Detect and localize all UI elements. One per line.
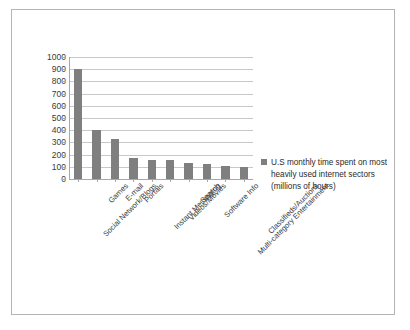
bar bbox=[129, 158, 137, 179]
bar bbox=[148, 160, 156, 179]
bar bbox=[74, 69, 82, 179]
y-axis-tick-mark bbox=[63, 94, 66, 95]
legend-label-line2: heavily used internet sectors bbox=[271, 169, 387, 181]
x-axis-tick-mark bbox=[133, 179, 134, 182]
bar-series bbox=[69, 57, 253, 179]
bar bbox=[92, 130, 100, 179]
plot-area bbox=[69, 57, 253, 179]
y-axis-tick-mark bbox=[63, 118, 66, 119]
x-axis-tick-label: Multi-category Entertainment bbox=[257, 182, 331, 256]
legend-label-line3: (millions of hours) bbox=[271, 181, 387, 193]
y-axis-tick-mark bbox=[63, 142, 66, 143]
x-axis-tick-mark bbox=[97, 179, 98, 182]
x-axis-tick-label: Software Info bbox=[223, 182, 260, 219]
y-axis-tick-mark bbox=[63, 155, 66, 156]
x-axis-tick-mark bbox=[115, 179, 116, 182]
y-axis-tick-mark bbox=[63, 69, 66, 70]
bar bbox=[221, 166, 229, 179]
x-axis-labels: Social Network/BlogsGamesE-mailPortalsIn… bbox=[69, 179, 253, 289]
x-axis-tick-mark bbox=[225, 179, 226, 182]
y-axis: 01002003004005006007008009001000 bbox=[30, 51, 66, 185]
y-axis-tick-mark bbox=[63, 106, 66, 107]
chart-container: 01002003004005006007008009001000 Social … bbox=[11, 9, 395, 315]
legend: U.S monthly time spent on most heavily u… bbox=[261, 157, 399, 193]
x-axis-tick-mark bbox=[170, 179, 171, 182]
y-axis-tick-mark bbox=[63, 81, 66, 82]
bar bbox=[184, 163, 192, 179]
x-axis-tick-mark bbox=[207, 179, 208, 182]
y-axis-tick-mark bbox=[63, 57, 66, 58]
bar bbox=[166, 160, 174, 179]
legend-swatch-icon bbox=[261, 159, 267, 165]
bar bbox=[240, 167, 248, 179]
legend-label: U.S monthly time spent on most heavily u… bbox=[271, 157, 387, 193]
y-axis-tick-mark bbox=[63, 179, 66, 180]
x-axis-tick-mark bbox=[78, 179, 79, 182]
y-axis-tick-mark bbox=[63, 167, 66, 168]
bar bbox=[203, 164, 211, 179]
x-axis-tick-mark bbox=[189, 179, 190, 182]
x-axis-tick-mark bbox=[244, 179, 245, 182]
x-axis-tick-mark bbox=[152, 179, 153, 182]
y-axis-tick-mark bbox=[63, 130, 66, 131]
bar bbox=[111, 139, 119, 179]
legend-label-line1: U.S monthly time spent on most bbox=[271, 157, 387, 169]
